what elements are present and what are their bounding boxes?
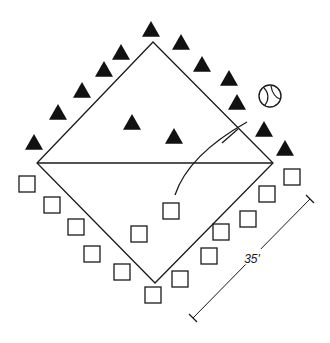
square-player-icon: [213, 224, 229, 240]
square-player-icon: [44, 197, 60, 213]
triangle-player-icon: [220, 70, 238, 86]
team-a-triangles: [25, 21, 294, 156]
triangle-player-icon: [112, 44, 130, 60]
triangle-player-icon: [95, 61, 113, 77]
triangle-player-icon: [123, 114, 141, 130]
square-player-icon: [284, 169, 300, 185]
square-player-icon: [172, 271, 188, 287]
curve-line: [175, 122, 247, 195]
triangle-player-icon: [228, 94, 246, 110]
square-player-icon: [114, 264, 130, 280]
triangle-player-icon: [165, 128, 183, 144]
triangle-player-icon: [172, 34, 190, 50]
ball-outline: [259, 85, 281, 107]
triangle-player-icon: [193, 56, 211, 72]
triangle-player-icon: [25, 134, 43, 150]
baseball-icon: [259, 85, 281, 107]
dimension-segment: [261, 199, 310, 249]
dimension-label: 35': [244, 252, 260, 266]
dimension-line: 35': [189, 195, 314, 322]
field-diamond: [37, 42, 273, 283]
square-player-icon: [68, 219, 84, 235]
square-player-icon: [163, 203, 179, 219]
dimension-segment: [193, 264, 246, 318]
square-player-icon: [84, 246, 100, 262]
square-player-icon: [259, 186, 275, 202]
throw-path: [175, 122, 247, 195]
square-player-icon: [131, 226, 147, 242]
triangle-player-icon: [49, 104, 67, 120]
square-player-icon: [240, 211, 256, 227]
team-b-squares: [19, 169, 300, 303]
drill-diagram: 35': [0, 0, 330, 343]
triangle-player-icon: [142, 21, 160, 37]
square-player-icon: [201, 248, 217, 264]
triangle-player-icon: [73, 82, 91, 98]
triangle-player-icon: [276, 140, 294, 156]
square-player-icon: [19, 176, 35, 192]
triangle-player-icon: [255, 121, 273, 137]
square-player-icon: [145, 287, 161, 303]
